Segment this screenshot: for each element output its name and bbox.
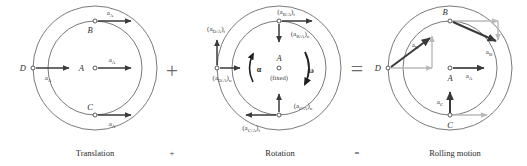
label-point-D: D [19, 63, 27, 73]
point-C [93, 113, 97, 117]
veclabel-aA-A: aA [109, 56, 116, 65]
point-B-rotation [277, 19, 281, 23]
veclabel-aBA-n: (aB/A)n [291, 30, 310, 39]
caption-translation: Translation [45, 148, 145, 158]
point-A-rotation [277, 66, 281, 70]
label-point-A: A [78, 63, 85, 73]
alpha-arc [250, 54, 254, 82]
label-point-A-rotation: A [275, 53, 282, 63]
label-point-B-rolling: B [442, 7, 447, 17]
physics-diagram-svg: B C A D aA aA aA aA [0, 0, 527, 166]
point-A-rolling [448, 66, 452, 70]
veclabel-aA-B: aA [107, 9, 114, 18]
label-point-C: C [87, 102, 93, 112]
veclabel-aCA-t: (aC/A)t [242, 124, 260, 133]
panel-rolling: B C A D aA aB aD aC [374, 6, 512, 130]
point-B-rolling [448, 19, 452, 23]
point-C-rolling [448, 113, 452, 117]
label-point-D-rolling: D [374, 63, 382, 73]
figure-root: B C A D aA aA aA aA [0, 0, 527, 166]
veclabel-aB-rolling: aB [486, 48, 493, 57]
label-point-C-rolling: C [447, 120, 453, 130]
panel-rotation: α ω A (fixed) (aB/A)t (aB/A)n (aD/A)t (a… [207, 6, 341, 133]
point-A [93, 66, 97, 70]
caption-equals: = [343, 148, 371, 158]
label-point-A-rolling: A [446, 73, 453, 83]
omega-symbol: ω [308, 66, 314, 75]
veclabel-aDA-t: (aD/A)t [207, 25, 225, 34]
alpha-symbol: α [257, 65, 262, 74]
veclabel-aA-rolling: aA [466, 72, 473, 81]
caption-rotation: Rotation [235, 148, 325, 158]
operator-equals: = [345, 58, 369, 80]
veclabel-aDA-n: (aD/A)n [213, 74, 232, 83]
point-B [93, 19, 97, 23]
point-D-rotation [215, 66, 219, 70]
point-C-rotation [277, 113, 281, 117]
veclabel-aBA-t: (aB/A)t [277, 8, 295, 17]
label-fixed-note: (fixed) [270, 74, 288, 82]
veclabel-aD-rolling: aD [412, 41, 419, 50]
veclabel-aC-rolling: aC [437, 98, 444, 107]
label-point-B: B [87, 25, 92, 35]
operator-plus: + [160, 60, 184, 82]
point-D-rolling [386, 66, 390, 70]
arrow-aB-resultant [453, 22, 496, 41]
caption-plus: + [158, 148, 186, 158]
point-D [31, 66, 35, 70]
caption-rolling-motion: Rolling motion [400, 148, 510, 158]
panel-translation: B C A D aA aA aA aA [19, 6, 157, 130]
veclabel-aA-C: aA [109, 120, 116, 129]
